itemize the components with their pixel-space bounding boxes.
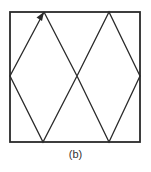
figure-caption: (b) — [0, 148, 151, 160]
square-boundary — [10, 12, 140, 142]
zigzag-path — [10, 12, 140, 142]
diamond-path-diagram — [0, 0, 151, 172]
arrowhead-icon — [37, 12, 45, 21]
